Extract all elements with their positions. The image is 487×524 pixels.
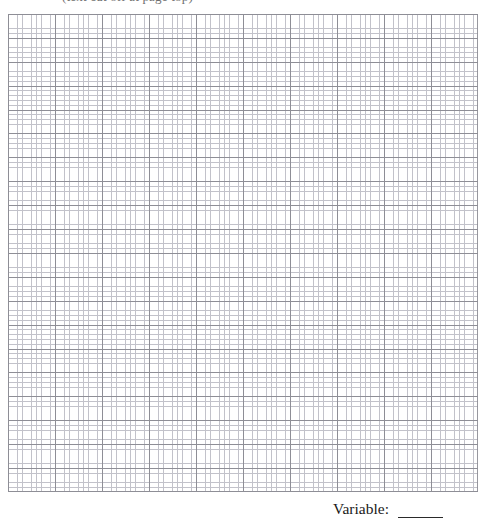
variable-label: Variable: bbox=[333, 500, 389, 518]
variable-caption-row: Variable: bbox=[0, 500, 487, 524]
graph-paper-grid[interactable] bbox=[8, 14, 478, 492]
header-clipped-text: (text cut off at page top) bbox=[62, 0, 193, 5]
header-clipped-region: (text cut off at page top) bbox=[0, 0, 487, 7]
variable-blank-input[interactable] bbox=[398, 500, 443, 518]
worksheet-page: (text cut off at page top) Variable: bbox=[0, 0, 487, 524]
